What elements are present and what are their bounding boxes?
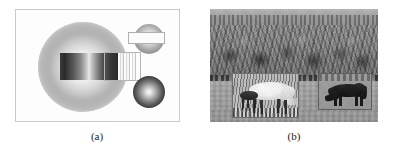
light-horse-head (287, 98, 297, 105)
panel-a-caption: (a) (67, 130, 127, 142)
inset-left-foreground-grass (233, 108, 298, 117)
dark-horse-leg (334, 96, 337, 106)
inset-right-horizon (319, 74, 371, 81)
strip-bounding-box (104, 52, 141, 81)
panel-b-photograph (210, 9, 378, 122)
figure: (a) (0, 0, 394, 155)
panel-a-frame (15, 9, 180, 122)
panel-b-caption: (b) (264, 130, 324, 142)
detection-box-left (232, 73, 299, 118)
dark-horse-leg (360, 96, 363, 106)
dark-horse-tail (363, 86, 367, 99)
dark-horse-leg (355, 96, 358, 106)
dark-horse-leg (339, 96, 342, 106)
detection-box-right (318, 73, 372, 110)
upper-right-rectangle (128, 32, 165, 44)
small-sphere-lower-right (133, 76, 165, 108)
